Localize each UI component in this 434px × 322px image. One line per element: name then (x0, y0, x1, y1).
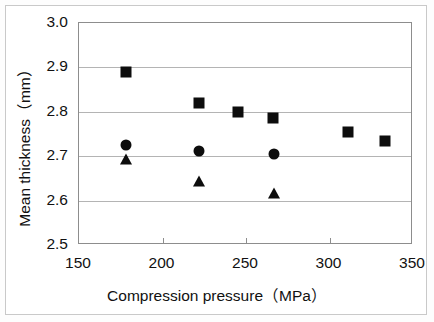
data-point-triangle (268, 187, 280, 198)
x-tick-label-150: 150 (48, 254, 108, 272)
x-tick-label-350: 350 (382, 254, 434, 272)
data-point-square (342, 126, 353, 137)
x-tick-300 (330, 238, 331, 244)
data-point-square (379, 135, 390, 146)
gridline-2.6 (79, 201, 411, 202)
data-point-square (232, 106, 243, 117)
x-tick-250 (246, 238, 247, 244)
x-axis-title: Compression pressure（MPa） (0, 283, 434, 305)
data-point-triangle (120, 154, 132, 165)
y-tick-label-3: 3.0 (26, 13, 68, 31)
data-point-circle (194, 145, 205, 156)
chart-figure: 2.52.62.72.82.93.0 150200250300350 Compr… (0, 0, 434, 322)
data-point-triangle (193, 175, 205, 186)
data-point-square (267, 113, 278, 124)
gridline-2.8 (79, 112, 411, 113)
x-tick-200 (163, 238, 164, 244)
x-tick-label-200: 200 (132, 254, 192, 272)
data-point-circle (269, 148, 280, 159)
plot-area (78, 22, 412, 244)
data-point-square (194, 97, 205, 108)
x-tick-label-300: 300 (299, 254, 359, 272)
data-point-square (120, 66, 131, 77)
data-point-circle (120, 140, 131, 151)
y-axis-title: Mean thickness（mm） (12, 39, 34, 249)
x-tick-label-250: 250 (215, 254, 275, 272)
